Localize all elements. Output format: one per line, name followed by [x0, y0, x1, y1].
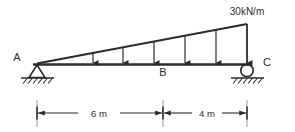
support-a-hatching: [23, 78, 53, 84]
support-a-pin: [21, 65, 54, 84]
dimension-label-4m: 4 m: [199, 108, 215, 119]
support-c-roller: [231, 64, 264, 83]
load-magnitude-label: 30kN/m: [230, 6, 264, 17]
node-label-c: C: [263, 56, 271, 68]
dimension-group: 6 m 4 m: [37, 100, 247, 127]
dimension-label-6m: 6 m: [91, 108, 107, 119]
node-label-a: A: [13, 51, 21, 63]
beam-diagram: 30kN/m A B: [0, 0, 295, 132]
distributed-load-group: [37, 24, 247, 64]
roller-circle: [241, 64, 253, 76]
node-label-b: B: [159, 66, 166, 78]
support-c-hatching: [233, 78, 263, 84]
